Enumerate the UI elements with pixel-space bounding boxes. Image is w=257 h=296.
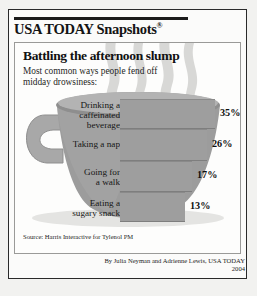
subhead: Most common ways people fend off midday … [23, 66, 173, 87]
bar-label: Drinking a caffeinated beverage [20, 100, 120, 131]
byline: By Julia Neyman and Adrienne Lewis, USA … [104, 257, 245, 274]
bar-label: Eating a sugary snack [20, 198, 120, 218]
bar-label: Going for a walk [20, 167, 120, 187]
brand-title: USA TODAY Snapshots® [14, 21, 214, 38]
bar-segment [120, 129, 207, 161]
brand-title-text: USA TODAY Snapshots [14, 21, 157, 37]
chart-panel: Battling the afternoon slump Most common… [14, 42, 241, 254]
source-note: Source: Harris Interactive for Tylenol P… [23, 233, 133, 240]
bar-segment [120, 161, 192, 192]
bar-value: 17% [197, 169, 217, 180]
brand-rule [14, 17, 188, 20]
headline: Battling the afternoon slump [23, 48, 179, 64]
bar-segment [120, 192, 185, 222]
byline-year: 2004 [104, 265, 245, 273]
bar-chart: Drinking a caffeinated beverage 35% Taki… [15, 99, 241, 223]
bar-value: 26% [212, 138, 232, 149]
bar-segment [120, 99, 215, 129]
bar-label: Taking a nap [20, 139, 120, 149]
bar-value: 13% [190, 200, 210, 211]
byline-credit: By Julia Neyman and Adrienne Lewis, USA … [104, 257, 245, 265]
usa-today-snapshot-infographic: USA TODAY Snapshots® Battling the aftern… [0, 0, 257, 296]
registered-trademark-icon: ® [157, 21, 163, 30]
bar-value: 35% [220, 107, 240, 118]
